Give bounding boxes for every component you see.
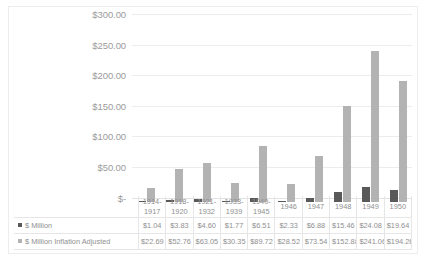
table-column-header: 1940- 1945 (248, 196, 275, 218)
data-cell: $152.88 (330, 234, 357, 250)
data-cell: $194.26 (384, 234, 411, 250)
y-axis-tick-label: $250.00 (92, 39, 126, 50)
data-cell: $1.04 (139, 218, 166, 234)
legend-swatch-icon (18, 239, 22, 243)
category-line-1: 1947 (305, 202, 327, 211)
bar-group (384, 10, 412, 202)
chart-container: $300.00 $250.00 $200.00 $150.00 $100.00 … (0, 0, 426, 260)
bar-group (216, 10, 244, 202)
legend-swatch-icon (18, 223, 22, 227)
data-cell: $3.83 (166, 218, 193, 234)
data-cell: $2.33 (275, 218, 302, 234)
plot-wrapper: $300.00 $250.00 $200.00 $150.00 $100.00 … (14, 10, 412, 202)
data-cell: $4.60 (193, 218, 220, 234)
bar-group (300, 10, 328, 202)
data-cell: $28.52 (275, 234, 302, 250)
data-cell: $6.51 (248, 218, 275, 234)
table-column-header: 1950 (384, 196, 411, 218)
table-corner-cell (14, 196, 139, 218)
category-line-1: 1949 (359, 202, 381, 211)
table-column-header: 1918- 1920 (166, 196, 193, 218)
bar-group (188, 10, 216, 202)
y-axis-tick-label: $200.00 (92, 70, 126, 81)
y-axis-tick-label: $150.00 (92, 100, 126, 111)
data-cell: $241.06 (357, 234, 384, 250)
bar-series-2 (371, 51, 379, 202)
bar-group (160, 10, 188, 202)
table-column-header: 1946 (275, 196, 302, 218)
category-line-2: 1920 (168, 207, 190, 216)
data-cell: $52.76 (166, 234, 193, 250)
category-line-1: 1946 (277, 202, 299, 211)
data-cell: $89.72 (248, 234, 275, 250)
category-line-1: 1914- (141, 197, 163, 206)
data-cell: $30.35 (220, 234, 247, 250)
category-line-1: 1918- (168, 197, 190, 206)
y-axis-tick-label: $50.00 (98, 162, 126, 173)
chart-data-table: 1914- 1917 1918- 1920 1921- 1932 1933- 1… (14, 196, 412, 250)
data-cell: $19.64 (384, 218, 411, 234)
table-column-header: 1947 (302, 196, 329, 218)
y-axis-tick-label: $100.00 (92, 131, 126, 142)
data-cell: $22.69 (139, 234, 166, 250)
category-line-2: 1939 (223, 207, 245, 216)
legend-label: $ Million (25, 221, 52, 230)
data-cell: $63.05 (193, 234, 220, 250)
table-column-header: 1948 (330, 196, 357, 218)
bar-group (356, 10, 384, 202)
category-line-2: 1932 (196, 207, 218, 216)
bar-group (328, 10, 356, 202)
table-row-series-2: $ Million Inflation Adjusted $22.69 $52.… (14, 234, 412, 250)
category-line-1: 1933- (223, 197, 245, 206)
data-cell: $6.88 (302, 218, 329, 234)
data-cell: $1.77 (220, 218, 247, 234)
legend-label: $ Million Inflation Adjusted (25, 237, 110, 246)
table-column-header: 1914- 1917 (139, 196, 166, 218)
table-column-header: 1921- 1932 (193, 196, 220, 218)
bar-group (244, 10, 272, 202)
table-column-header: 1933- 1939 (220, 196, 247, 218)
category-line-1: 1921- (196, 197, 218, 206)
bar-group (132, 10, 160, 202)
legend-entry-series-2: $ Million Inflation Adjusted (14, 234, 139, 250)
category-line-1: 1940- (250, 197, 272, 206)
category-line-1: 1950 (387, 202, 409, 211)
bar-series-2 (399, 81, 407, 202)
y-axis: $300.00 $250.00 $200.00 $150.00 $100.00 … (14, 10, 132, 202)
table-row-series-1: $ Million $1.04 $3.83 $4.60 $1.77 $6.51 … (14, 218, 412, 234)
bar-group (272, 10, 300, 202)
category-line-1: 1948 (332, 202, 354, 211)
legend-entry-series-1: $ Million (14, 218, 139, 234)
category-line-2: 1917 (141, 207, 163, 216)
category-line-2: 1945 (250, 207, 272, 216)
data-cell: $15.46 (330, 218, 357, 234)
data-cell: $24.08 (357, 218, 384, 234)
data-cell: $73.54 (302, 234, 329, 250)
table-column-header: 1949 (357, 196, 384, 218)
bar-series-2 (343, 106, 351, 202)
plot-area (132, 10, 412, 202)
bar-series-2 (259, 146, 267, 202)
table-header-row: 1914- 1917 1918- 1920 1921- 1932 1933- 1… (14, 196, 412, 218)
y-axis-tick-label: $300.00 (92, 9, 126, 20)
bars-layer (132, 10, 412, 202)
